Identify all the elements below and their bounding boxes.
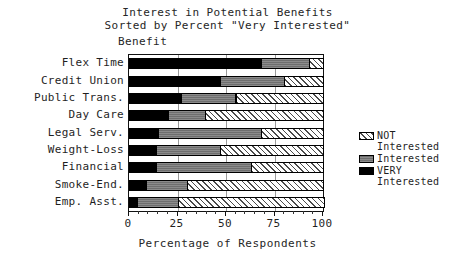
bar-segment bbox=[129, 93, 182, 104]
x-axis-tick bbox=[293, 211, 294, 214]
legend-swatch-icon bbox=[359, 132, 374, 140]
x-axis-title: Percentage of Respondents bbox=[0, 237, 455, 250]
bar-row bbox=[129, 76, 323, 87]
x-axis-tick bbox=[303, 211, 304, 214]
y-axis-tick-label: Credit Union bbox=[6, 74, 124, 87]
y-axis-title: Benefit bbox=[118, 35, 167, 48]
y-axis-tick-label: Weight-Loss bbox=[6, 143, 124, 156]
legend-swatch-icon bbox=[359, 167, 374, 175]
bar-segment bbox=[261, 58, 311, 69]
bar-segment bbox=[129, 58, 262, 69]
bar-segment bbox=[168, 110, 206, 121]
plot-area bbox=[128, 54, 324, 212]
legend-label: VERY Interested bbox=[377, 165, 455, 187]
y-axis-tick-labels: Flex TimeCredit UnionPublic Trans.Day Ca… bbox=[0, 54, 124, 210]
bar-segment bbox=[129, 145, 157, 156]
bar-row bbox=[129, 110, 323, 121]
x-axis-tick bbox=[254, 211, 255, 214]
bar-row bbox=[129, 180, 323, 191]
bar-row bbox=[129, 128, 323, 139]
x-axis-tick bbox=[177, 211, 178, 216]
x-axis-tick-label: 75 bbox=[267, 217, 281, 230]
x-axis-tick bbox=[138, 211, 139, 214]
bar-segment bbox=[220, 145, 324, 156]
y-axis-tick-label: Flex Time bbox=[6, 56, 124, 69]
chart-legend: NOT InterestedInterestedVERY Interested bbox=[359, 130, 455, 188]
x-axis-tick bbox=[206, 211, 207, 214]
bar-segment bbox=[156, 145, 221, 156]
bar-segment bbox=[205, 110, 324, 121]
legend-label: Interested bbox=[377, 153, 455, 164]
x-axis-tick-label: 0 bbox=[125, 217, 132, 230]
x-axis-tick bbox=[157, 211, 158, 214]
x-axis-tick bbox=[147, 211, 148, 214]
y-axis-tick-label: Public Trans. bbox=[6, 91, 124, 104]
bar-row bbox=[129, 93, 323, 104]
y-axis-tick-label: Smoke-End. bbox=[6, 178, 124, 191]
x-axis-tick bbox=[235, 211, 236, 214]
x-axis-tick bbox=[225, 211, 226, 216]
bar-segment bbox=[156, 162, 252, 173]
x-axis-tick bbox=[264, 211, 265, 214]
y-axis-tick-label: Day Care bbox=[6, 108, 124, 121]
x-axis-tick-label: 25 bbox=[170, 217, 184, 230]
y-axis-tick-label: Financial bbox=[6, 160, 124, 173]
x-axis-tick bbox=[312, 211, 313, 214]
bar-segment bbox=[178, 197, 325, 208]
x-axis-tick bbox=[283, 211, 284, 214]
x-axis-tick-label: 100 bbox=[312, 217, 333, 230]
x-axis-tick bbox=[128, 211, 129, 216]
bar-segment bbox=[284, 76, 324, 87]
bar-row bbox=[129, 145, 323, 156]
x-axis-tick bbox=[196, 211, 197, 214]
bar-row bbox=[129, 58, 323, 69]
bar-segment bbox=[137, 197, 179, 208]
legend-swatch-icon bbox=[359, 155, 374, 163]
bar-segment bbox=[129, 110, 169, 121]
legend-label: NOT Interested bbox=[377, 130, 455, 152]
bar-row bbox=[129, 197, 323, 208]
bar-segment bbox=[187, 180, 324, 191]
bar-segment bbox=[261, 128, 324, 139]
x-axis-tick bbox=[322, 211, 323, 216]
bar-segment bbox=[251, 162, 324, 173]
bar-segment bbox=[129, 180, 147, 191]
bar-segment bbox=[158, 128, 262, 139]
bar-segment bbox=[220, 76, 285, 87]
bar-segment bbox=[236, 93, 324, 104]
plot-inner bbox=[129, 55, 323, 211]
x-axis-tick bbox=[244, 211, 245, 214]
legend-entry: NOT Interested bbox=[359, 130, 455, 152]
bar-segment bbox=[129, 128, 159, 139]
bar-row bbox=[129, 162, 323, 173]
x-axis-tick-label: 50 bbox=[218, 217, 232, 230]
x-axis-tick bbox=[215, 211, 216, 214]
y-axis-tick-label: Legal Serv. bbox=[6, 126, 124, 139]
bar-segment bbox=[129, 76, 221, 87]
legend-entry: VERY Interested bbox=[359, 165, 455, 187]
chart-title: Interest in Potential Benefits Sorted by… bbox=[0, 6, 455, 32]
x-axis-tick bbox=[274, 211, 275, 216]
chart-title-line-2: Sorted by Percent "Very Interested" bbox=[0, 19, 455, 32]
y-axis-tick-label: Emp. Asst. bbox=[6, 195, 124, 208]
bar-segment bbox=[146, 180, 188, 191]
bar-segment bbox=[181, 93, 236, 104]
legend-entry: Interested bbox=[359, 153, 455, 164]
chart-title-line-1: Interest in Potential Benefits bbox=[0, 6, 455, 19]
bar-segment bbox=[129, 162, 157, 173]
bar-segment bbox=[309, 58, 324, 69]
x-axis-tick bbox=[167, 211, 168, 214]
x-axis-tick bbox=[186, 211, 187, 214]
x-axis-tick-labels: 0255075100 bbox=[0, 217, 455, 231]
